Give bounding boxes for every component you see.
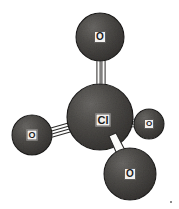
scan-speck — [170, 201, 172, 203]
atom-layer — [12, 13, 164, 200]
molecule-svg — [0, 0, 179, 209]
atom-o-bottom-right — [104, 148, 156, 200]
atom-o-top — [76, 13, 124, 61]
atom-cl-center — [67, 84, 133, 150]
molecule-diagram-canvas: O Cl O O O — [0, 0, 179, 209]
atom-o-left — [12, 115, 52, 155]
atom-o-right — [134, 109, 164, 139]
